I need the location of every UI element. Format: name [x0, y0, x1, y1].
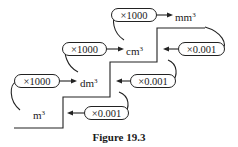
unit-cm3: cm3	[126, 43, 143, 57]
unit-m-base: m	[33, 109, 42, 121]
unit-dm3: dm3	[80, 75, 98, 89]
multiply-1000-pill-bottom: ×1000	[14, 74, 60, 88]
unit-mm-exp: 3	[192, 11, 196, 19]
multiply-0001-pill-middle: ×0.001	[130, 74, 176, 88]
unit-cm-exp: 3	[139, 45, 143, 53]
multiply-1000-pill-middle: ×1000	[62, 42, 107, 56]
multiply-0001-pill-top: ×0.001	[178, 42, 225, 56]
unit-mm-base: mm	[175, 11, 192, 23]
figure-caption: Figure 19.3	[0, 131, 238, 143]
unit-m3: m3	[33, 107, 45, 121]
unit-mm3: mm3	[175, 9, 196, 23]
unit-dm-base: dm	[80, 77, 94, 89]
multiply-0001-pill-bottom: ×0.001	[84, 106, 129, 120]
unit-m-exp: 3	[42, 109, 46, 117]
multiply-1000-pill-top: ×1000	[111, 8, 157, 22]
unit-dm-exp: 3	[94, 77, 98, 85]
unit-cm-base: cm	[126, 45, 139, 57]
